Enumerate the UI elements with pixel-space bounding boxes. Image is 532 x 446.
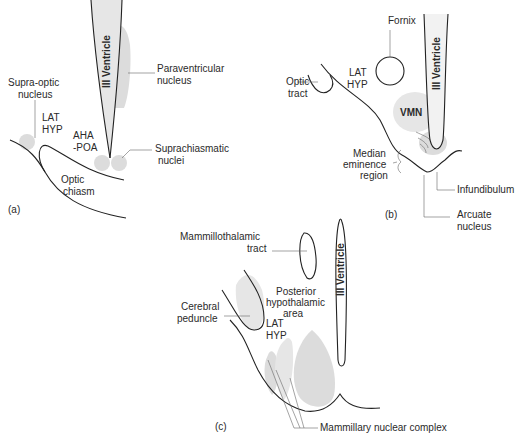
mammillary-medial-shape — [275, 338, 293, 400]
mammillary-main-shape — [294, 330, 335, 407]
optic-chiasm-label-1: Optic — [61, 174, 84, 185]
cerebral-peduncle-label-2: peduncle — [177, 313, 218, 324]
fornix-label: Fornix — [388, 15, 416, 26]
ventricle-b-label: III Ventricle — [431, 37, 442, 90]
lathyp-c-label-2: HYP — [266, 330, 287, 341]
panel-c: III Ventricle Mammillothalamic tract Cer… — [177, 219, 447, 433]
optic-tract-label-2: tract — [288, 88, 308, 99]
panel-b-label: (b) — [385, 209, 397, 220]
cerebral-peduncle-shape — [236, 275, 264, 330]
lathyp-b-label-1: LAT — [349, 67, 367, 78]
vmn-label: VMN — [400, 107, 422, 118]
panel-c-label: (c) — [215, 421, 227, 432]
optic-tract-shape — [308, 75, 333, 93]
panel-a: III Ventricle Paraventricular nucleus Su… — [8, 0, 229, 218]
median-eminence-label-2: eminence — [343, 159, 387, 170]
arcuate-label-2: nucleus — [457, 221, 491, 232]
optic-tract-label-1: Optic — [286, 76, 309, 87]
mammillothalamic-tract-shape — [300, 233, 316, 279]
panel-a-label: (a) — [8, 204, 20, 215]
suprachiasmatic-label-1: Suprachiasmatic — [155, 143, 229, 154]
suprachiasmatic-nucleus-left — [94, 155, 110, 171]
mammillothalamic-label-1: Mammillothalamic — [180, 231, 260, 242]
lathyp-a-label-1: LAT — [42, 112, 60, 123]
posterior-label-2: hypothalamic — [266, 297, 325, 308]
paraventricular-label-1: Paraventricular — [157, 63, 225, 74]
fornix-shape — [376, 57, 404, 85]
median-eminence-label-3: region — [360, 170, 388, 181]
infundibulum-label: Infundibulum — [457, 184, 514, 195]
ventricle-c-label: III Ventricle — [335, 243, 346, 296]
supraoptic-nucleus-shape — [19, 134, 35, 150]
lathyp-c-label-1: LAT — [266, 318, 284, 329]
ventricle-a-label: III Ventricle — [101, 35, 112, 88]
mammillary-label: Mammillary nuclear complex — [320, 422, 447, 433]
median-eminence-label-1: Median — [353, 148, 386, 159]
hypothalamus-diagram: III Ventricle Paraventricular nucleus Su… — [0, 0, 532, 446]
optic-chiasm-label-2: chiasm — [63, 186, 95, 197]
paraventricular-label-2: nucleus — [157, 75, 191, 86]
cerebral-peduncle-label-1: Cerebral — [181, 301, 219, 312]
ahapoa-label-2: -POA — [73, 142, 98, 153]
lathyp-b-label-2: HYP — [347, 79, 368, 90]
suprachiasmatic-label-2: nuclei — [158, 155, 184, 166]
supraoptic-label-1: Supra-optic — [8, 77, 59, 88]
panel-b: Fornix III Ventricle Optic tract LAT HYP… — [286, 14, 514, 232]
ahapoa-label-1: AHA — [73, 130, 94, 141]
suprachiasmatic-nucleus-right — [111, 155, 127, 171]
lathyp-a-label-2: HYP — [42, 124, 63, 135]
posterior-label-3: area — [283, 308, 303, 319]
posterior-label-1: Posterior — [276, 286, 317, 297]
mammillothalamic-label-2: tract — [247, 243, 267, 254]
arcuate-label-1: Arcuate — [457, 209, 492, 220]
supraoptic-label-2: nucleus — [18, 89, 52, 100]
